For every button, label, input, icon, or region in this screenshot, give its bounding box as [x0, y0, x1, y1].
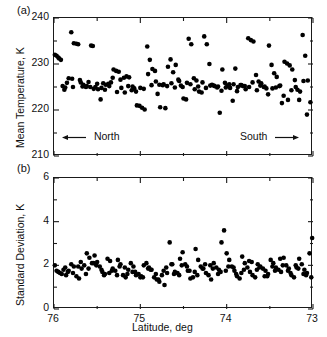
data-point [219, 88, 224, 93]
data-point [158, 105, 163, 110]
data-point [273, 268, 278, 273]
data-point [206, 273, 211, 278]
data-point [102, 273, 107, 278]
data-point [200, 80, 205, 85]
data-point [196, 258, 201, 263]
data-point [180, 85, 185, 90]
panel-b-scatter-layer [54, 178, 313, 309]
data-point [71, 85, 76, 90]
data-point [80, 84, 85, 89]
data-point [307, 251, 312, 256]
data-point [184, 97, 189, 102]
data-point [127, 75, 132, 80]
data-point [224, 251, 229, 256]
data-point [165, 84, 170, 89]
data-point [166, 64, 171, 69]
data-point [202, 34, 207, 39]
data-point [290, 67, 295, 72]
data-point [168, 57, 173, 62]
data-point [270, 264, 275, 269]
south-annotation: South [240, 130, 299, 142]
data-point [118, 77, 123, 82]
data-point [258, 83, 263, 88]
arrow-right-icon [273, 133, 299, 142]
data-point [255, 88, 260, 93]
data-point [178, 256, 183, 261]
data-point [208, 263, 213, 268]
data-point [274, 75, 279, 80]
data-point [219, 240, 224, 245]
data-point [115, 90, 120, 95]
data-point [78, 260, 83, 265]
data-point [156, 277, 161, 282]
data-point [110, 76, 115, 81]
data-point [298, 89, 303, 94]
data-point [237, 276, 242, 281]
data-point [155, 92, 160, 97]
data-point [107, 84, 112, 89]
data-point [187, 268, 192, 273]
data-point [86, 266, 91, 271]
data-point [247, 85, 252, 90]
data-point [115, 273, 120, 278]
data-point [255, 267, 260, 272]
data-point [189, 42, 194, 47]
data-point [297, 98, 302, 103]
data-point [186, 36, 191, 41]
data-point [310, 236, 315, 241]
data-point [144, 261, 149, 266]
data-point [266, 92, 271, 97]
data-point [82, 263, 87, 268]
y-tick-label: 4 [9, 214, 49, 226]
data-point [95, 81, 100, 86]
data-point [278, 256, 283, 261]
data-point [251, 39, 256, 44]
y-tick-label: 230 [9, 56, 49, 68]
data-point [227, 258, 232, 263]
data-point [163, 106, 168, 111]
data-point [196, 84, 201, 89]
data-point [108, 259, 113, 264]
data-point [77, 276, 82, 281]
data-point [116, 70, 121, 75]
data-point [153, 69, 158, 74]
data-point [125, 272, 130, 277]
data-point [69, 30, 74, 35]
data-point [162, 283, 167, 288]
data-point [142, 107, 147, 112]
data-point [279, 270, 284, 275]
data-point [154, 272, 159, 277]
data-point [138, 275, 143, 280]
panel-b-plot-area [53, 177, 312, 308]
data-point [122, 265, 127, 270]
data-point [242, 261, 247, 266]
data-point [179, 263, 184, 268]
data-point [233, 66, 238, 71]
data-point [171, 70, 176, 75]
data-point [126, 84, 131, 89]
data-point [231, 265, 236, 270]
data-point [84, 272, 89, 277]
data-point [293, 263, 298, 268]
data-point [149, 83, 154, 88]
data-point [274, 85, 279, 90]
y-tick-label: 220 [9, 102, 49, 114]
data-point [231, 82, 236, 87]
data-point [177, 273, 182, 278]
data-point [193, 247, 198, 252]
data-point [300, 33, 305, 38]
data-point [204, 86, 209, 91]
data-point [280, 101, 285, 106]
data-point [227, 82, 232, 87]
y-tick-label: 210 [9, 148, 49, 160]
data-point [217, 110, 222, 115]
data-point [92, 253, 97, 258]
data-point [141, 87, 146, 92]
x-tick-label: 73 [300, 312, 324, 324]
data-point [250, 80, 255, 85]
data-point [66, 270, 71, 275]
data-point [98, 97, 103, 102]
data-point [199, 90, 204, 95]
arrow-left-icon [62, 133, 88, 142]
data-point [59, 272, 64, 277]
